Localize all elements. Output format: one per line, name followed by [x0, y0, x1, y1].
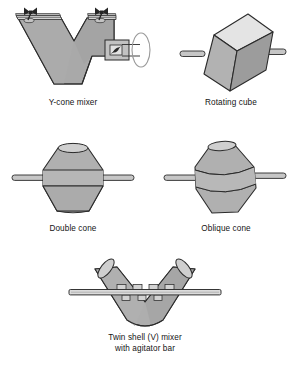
- double-cone-right-shaft: [100, 175, 134, 180]
- rotating-cube-diagram: [178, 6, 288, 101]
- oblique-cone-diagram: [162, 134, 290, 224]
- y-cone-drive-wheel: [132, 33, 150, 67]
- double-cone-lower-cone: [43, 186, 103, 211]
- double-cone-left-shaft: [12, 175, 46, 180]
- twin-shell-v-mixer-diagram: [65, 258, 225, 333]
- y-cone-left-flange: [16, 14, 62, 20]
- caption-twin-shell-v-mixer: Twin shell (V) mixer with agitator bar: [45, 333, 245, 354]
- double-cone-top-opening: [58, 143, 88, 152]
- oblique-cone-right-shaft: [252, 173, 286, 178]
- double-cone-diagram: [8, 134, 138, 224]
- caption-oblique-cone: Oblique cone: [166, 224, 286, 235]
- caption-double-cone: Double cone: [8, 224, 138, 235]
- double-cone-central-band: [43, 170, 103, 186]
- caption-y-cone-mixer: Y-cone mixer: [8, 98, 138, 109]
- cube-left-shaft: [180, 51, 205, 57]
- tumbling-blender-figure: Y-cone mixer Rotating cube: [0, 0, 290, 367]
- y-cone-left-arm-shade: [18, 18, 74, 84]
- caption-rotating-cube: Rotating cube: [176, 98, 286, 109]
- y-cone-mixer-diagram: [4, 4, 154, 99]
- oblique-cone-left-shaft: [164, 175, 198, 180]
